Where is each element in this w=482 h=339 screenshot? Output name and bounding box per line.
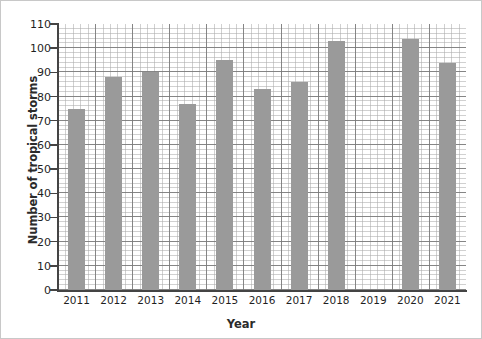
bar[interactable]: [254, 89, 271, 290]
y-tick-mark: [50, 193, 57, 195]
y-axis-spine: [57, 23, 59, 291]
bar[interactable]: [402, 39, 419, 290]
bar-slot: [318, 24, 355, 290]
y-tick-label: 60: [0, 138, 51, 151]
x-axis-spine: [57, 290, 467, 292]
y-tick-label: 20: [0, 235, 51, 248]
y-tick-label: 30: [0, 211, 51, 224]
y-tick-mark: [50, 168, 57, 170]
y-tick-label: 0: [0, 284, 51, 297]
y-tick-label: 40: [0, 187, 51, 200]
y-tick-mark: [50, 23, 57, 25]
x-axis-title: Year: [1, 317, 481, 331]
bar[interactable]: [328, 41, 345, 290]
bar-slot: [206, 24, 243, 290]
y-tick-mark: [50, 72, 57, 74]
y-tick-label: 50: [0, 163, 51, 176]
bar-slot: [355, 24, 392, 290]
bar[interactable]: [142, 72, 159, 290]
bar[interactable]: [105, 77, 122, 290]
y-tick-mark: [50, 265, 57, 267]
y-tick-mark: [50, 47, 57, 49]
plot-area: [58, 24, 466, 290]
bar-slot: [243, 24, 280, 290]
bar[interactable]: [216, 60, 233, 290]
bar-slot: [169, 24, 206, 290]
bar-slot: [132, 24, 169, 290]
y-tick-label: 90: [0, 66, 51, 79]
y-tick-mark: [50, 217, 57, 219]
bar[interactable]: [291, 82, 308, 290]
y-tick-label: 110: [0, 18, 51, 31]
x-tick-label: 2021: [423, 294, 471, 306]
bar[interactable]: [439, 63, 456, 290]
y-tick-mark: [50, 241, 57, 243]
bar[interactable]: [179, 104, 196, 290]
bar-slot: [95, 24, 132, 290]
y-tick-label: 70: [0, 114, 51, 127]
bar-series: [58, 24, 466, 290]
bar[interactable]: [68, 109, 85, 290]
y-tick-mark: [50, 120, 57, 122]
bar-slot: [392, 24, 429, 290]
y-tick-label: 80: [0, 90, 51, 103]
bar-slot: [58, 24, 95, 290]
y-tick-label: 100: [0, 42, 51, 55]
y-tick-mark: [50, 96, 57, 98]
bar-slot: [281, 24, 318, 290]
y-tick-mark: [50, 289, 57, 291]
y-tick-label: 10: [0, 259, 51, 272]
bar-slot: [429, 24, 466, 290]
chart-figure: Number of tropical storms Year 010203040…: [0, 0, 482, 339]
y-tick-mark: [50, 144, 57, 146]
